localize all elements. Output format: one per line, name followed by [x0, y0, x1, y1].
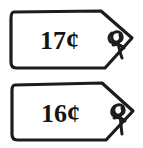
price-tag-bottom: 16¢ [12, 83, 133, 140]
illustration-canvas: 17¢ 16¢ [0, 0, 143, 148]
tag-price-label: 16¢ [41, 99, 80, 128]
price-tag-top: 17¢ [11, 11, 132, 68]
price-tags-drawing: 17¢ 16¢ [0, 0, 143, 148]
tag-price-label: 17¢ [40, 26, 79, 55]
